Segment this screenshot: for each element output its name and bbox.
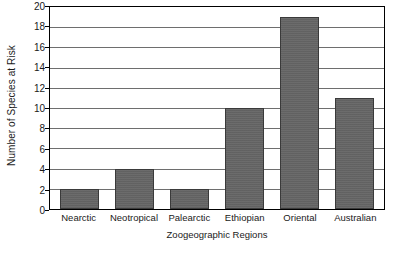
y-axis-tick-mark	[45, 149, 49, 150]
bar-slot	[327, 7, 382, 209]
y-axis-tick-mark	[45, 67, 49, 68]
bar[interactable]	[170, 189, 209, 209]
bars-container	[50, 7, 384, 209]
x-axis-tick-label: Ethiopian	[217, 211, 272, 227]
y-axis-tick-mark	[45, 128, 49, 129]
bar-chart-figure: Number of Species at Risk 02468101214161…	[0, 0, 410, 254]
x-axis-tick-label: Oriental	[272, 211, 327, 227]
bar[interactable]	[115, 169, 154, 209]
bar-slot	[162, 7, 217, 209]
y-axis-title-text: Number of Species at Risk	[6, 45, 17, 166]
y-axis-tick-mark	[45, 108, 49, 109]
x-axis-tick-label: Palearctic	[162, 211, 217, 227]
bar-slot	[107, 7, 162, 209]
bar[interactable]	[60, 189, 99, 209]
bar-slot	[52, 7, 107, 209]
bar-slot	[217, 7, 272, 209]
y-axis-tick-label: 12	[34, 82, 45, 93]
y-axis-tick-label: 20	[34, 1, 45, 12]
y-axis-tick-label: 18	[34, 21, 45, 32]
y-axis-tick-mark	[45, 47, 49, 48]
x-axis-tick-label: Nearctic	[51, 211, 106, 227]
y-axis-tick-mark	[45, 169, 49, 170]
bar[interactable]	[280, 17, 319, 209]
y-axis-tick-label: 16	[34, 41, 45, 52]
x-axis-tick-label: Neotropical	[106, 211, 161, 227]
y-axis-tick-mark	[45, 88, 49, 89]
x-axis-tick-label: Australian	[328, 211, 383, 227]
bar[interactable]	[225, 108, 264, 209]
bar-slot	[272, 7, 327, 209]
y-axis-tick-label: 10	[34, 103, 45, 114]
y-axis-tick-mark	[45, 210, 49, 211]
y-axis-tick-label: 14	[34, 62, 45, 73]
y-axis-title: Number of Species at Risk	[0, 0, 22, 210]
y-axis-tick-mark	[45, 26, 49, 27]
x-axis-title: Zoogeographic Regions	[49, 229, 385, 240]
plot-area	[49, 6, 385, 210]
bar[interactable]	[335, 98, 374, 209]
x-axis-tick-labels: NearcticNeotropicalPalearcticEthiopianOr…	[49, 211, 385, 227]
y-axis-tick-mark	[45, 6, 49, 7]
y-axis-tick-mark	[45, 190, 49, 191]
